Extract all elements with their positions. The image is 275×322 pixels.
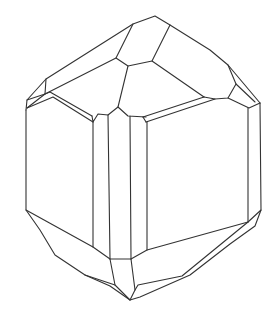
bottom-left-face — [26, 210, 261, 259]
bottom-right-face — [135, 222, 248, 290]
crystal-figure: Crystal habit line drawing — [0, 0, 275, 322]
right-band-cap — [143, 117, 146, 122]
outline-right — [130, 103, 261, 300]
right-band-inner — [146, 99, 215, 122]
bottom-center-face — [110, 259, 135, 300]
right-small-face-2 — [228, 98, 260, 108]
right-band-outer — [143, 97, 204, 117]
left-band-cap — [92, 107, 146, 122]
outline-left — [26, 110, 130, 300]
top-inner-edge — [116, 25, 170, 66]
bottom-left-inner — [85, 275, 115, 285]
prism-edge-3 — [130, 116, 131, 259]
top-right-face — [152, 61, 204, 97]
right-small-face — [204, 65, 236, 99]
top-ridge-inner — [45, 24, 133, 94]
prism-edge-2 — [108, 115, 110, 259]
top-center-down — [118, 66, 128, 107]
crystal-drawing — [0, 0, 275, 322]
